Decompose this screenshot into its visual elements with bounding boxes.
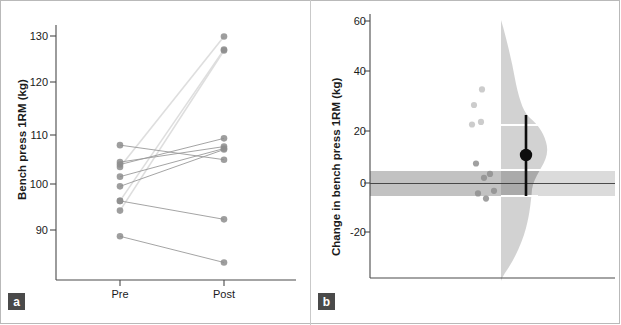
panel-a-data-point [117,159,124,166]
panel-a-data-point [117,183,124,190]
panel-label-b: b [318,293,335,310]
panel-b-data-point [487,171,493,177]
panel-b-data-point [479,86,485,92]
panel-a-connector-line [120,138,224,164]
panel-a-data-point [221,135,228,142]
panel-a-connector-line [120,236,224,262]
panel-a-plot-area [0,0,310,325]
panel-b-data-point [478,119,484,125]
panel-a-data-point [117,198,124,205]
panel-b-plot-area [310,0,621,325]
panel-a-connector-lines [120,36,224,262]
panel-a-data-point [221,259,228,266]
panel-a-data-point [117,142,124,149]
panel-b-data-point [469,121,475,127]
panel-a-data-point [221,47,228,54]
panel-b-data-point [481,175,487,181]
panel-b-data-point [483,196,489,202]
panel-a-data-point [221,146,228,153]
panel-a-connector-line [120,51,224,211]
panel-a-connector-line [120,149,224,186]
panel-a-connector-line [120,147,224,163]
panel-b-data-point [471,102,477,108]
panel-b-data-point [475,190,481,196]
panel-b-data-point [491,188,497,194]
panel-b: Change in bench press 1RM (kg) 60 40 20 … [310,0,621,325]
panel-label-a: a [8,293,25,310]
panel-a-connector-line [120,201,224,219]
panel-a-data-point [117,173,124,180]
panel-a-data-point [221,156,228,163]
panel-a-data-point [117,233,124,240]
panel-a-data-point [221,216,228,223]
panel-a-connector-line [120,50,224,201]
panel-b-data-point [473,160,479,166]
panel-a: Bench press 1RM (kg) 130 120 110 100 90 … [0,0,310,325]
panel-a-data-point [117,207,124,214]
panel-a-data-point [221,33,228,40]
panel-b-mean-estimate-dot [520,149,532,161]
figure-container: Bench press 1RM (kg) 130 120 110 100 90 … [0,0,621,325]
